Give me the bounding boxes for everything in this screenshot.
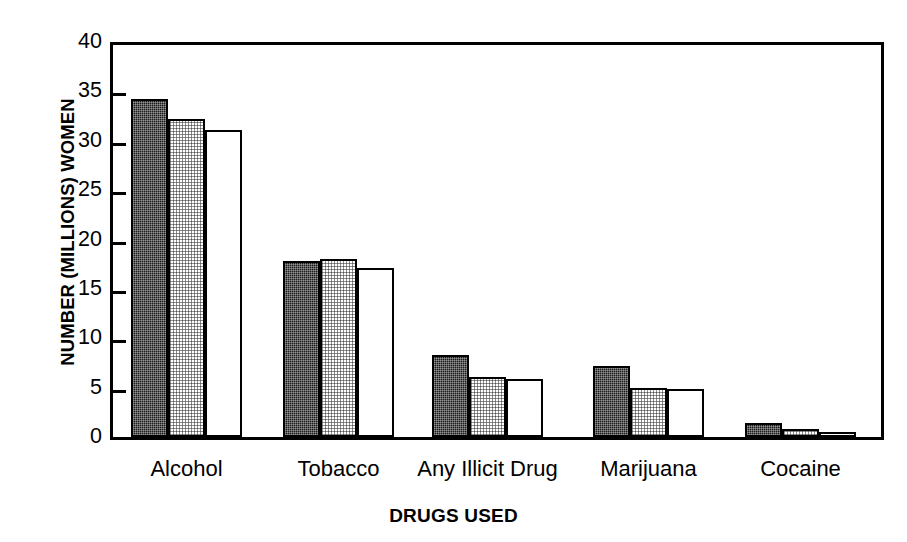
- y-tick-label: 30: [46, 130, 102, 152]
- y-tick-mark: [113, 143, 126, 146]
- bar: [630, 388, 667, 437]
- bar: [168, 119, 205, 437]
- bar: [593, 366, 630, 437]
- y-tick-mark: [113, 242, 126, 245]
- y-tick-label: 15: [46, 278, 102, 300]
- y-tick-label: 25: [46, 179, 102, 201]
- bar: [819, 432, 856, 437]
- y-tick-mark: [113, 340, 126, 343]
- bar: [283, 261, 320, 437]
- bar: [432, 355, 469, 437]
- bar: [667, 389, 704, 437]
- y-tick-mark: [113, 291, 126, 294]
- y-tick-mark: [113, 192, 126, 195]
- bar: [205, 130, 242, 437]
- y-tick-label: 40: [46, 31, 102, 53]
- y-tick-mark: [113, 93, 126, 96]
- bar: [506, 379, 543, 437]
- chart-figure: NUMBER (MILLIONS) WOMEN 0510152025303540…: [0, 0, 907, 542]
- plot-area: [110, 42, 884, 440]
- x-category-label: Cocaine: [681, 458, 907, 480]
- y-tick-label: 35: [46, 80, 102, 102]
- bar: [782, 429, 819, 437]
- bar: [320, 259, 357, 437]
- y-tick-label: 0: [46, 426, 102, 448]
- y-tick-label: 5: [46, 377, 102, 399]
- y-tick-label: 10: [46, 327, 102, 349]
- x-axis-title: DRUGS USED: [0, 505, 907, 527]
- y-tick-mark: [113, 390, 126, 393]
- bar: [469, 377, 506, 437]
- bar: [131, 99, 168, 437]
- bar: [745, 423, 782, 437]
- y-tick-label: 20: [46, 229, 102, 251]
- bar: [357, 268, 394, 437]
